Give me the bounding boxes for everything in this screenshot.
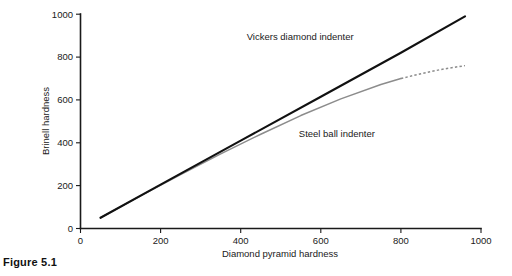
x-tick-label-400: 400: [233, 235, 249, 246]
x-axis-title: Diamond pyramid hardness: [222, 248, 338, 259]
x-tick-label-0: 0: [78, 235, 83, 246]
x-tick-label-800: 800: [393, 235, 409, 246]
figure-container: 0 200 400 600 800 1000 0 200 400 600 800…: [0, 0, 512, 276]
hardness-comparison-chart: 0 200 400 600 800 1000 0 200 400 600 800…: [0, 0, 512, 276]
series-label-vickers: Vickers diamond indenter: [247, 31, 354, 42]
y-tick-label-0: 0: [68, 223, 73, 234]
x-tick-label-1000: 1000: [470, 235, 491, 246]
x-tick-label-600: 600: [313, 235, 329, 246]
series-label-steel-ball: Steel ball indenter: [299, 128, 375, 139]
y-tick-label-800: 800: [57, 51, 73, 62]
y-tick-label-200: 200: [57, 180, 73, 191]
y-tick-label-1000: 1000: [52, 9, 73, 20]
x-tick-label-200: 200: [153, 235, 169, 246]
y-axis-title: Brinell hardness: [40, 87, 51, 155]
figure-caption: Figure 5.1: [3, 256, 57, 268]
y-tick-label-600: 600: [57, 94, 73, 105]
y-tick-label-400: 400: [57, 137, 73, 148]
